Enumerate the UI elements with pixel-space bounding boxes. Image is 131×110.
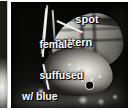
annotation-suffused-line1: suffused (40, 69, 84, 81)
figure-panel: spot pattern female suffused w/ blue (0, 0, 131, 110)
annotation-suffused-line2: w/ blue (22, 91, 83, 102)
annotation-female-line1: female (40, 38, 73, 50)
annotation-spot-pattern-line1: spot (75, 13, 98, 25)
adjacent-photo-sliver (0, 1, 8, 108)
annotation-female: female (22, 28, 73, 60)
annotation-suffused-with-blue: suffused w/ blue (22, 59, 83, 108)
butterfly-photograph: spot pattern female suffused w/ blue (11, 2, 128, 108)
